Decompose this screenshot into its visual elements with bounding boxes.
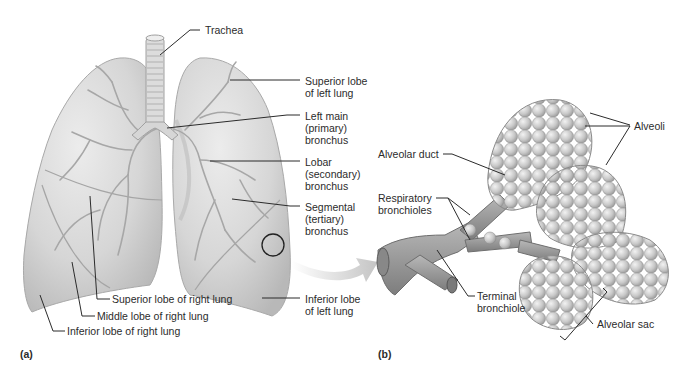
label-inferior-lobe-right-lung: Inferior lobe of right lung [67, 325, 180, 337]
label-inferior-lobe-left-lung: Inferior lobe of left lung [305, 293, 360, 317]
magnify-arrow [292, 258, 378, 282]
label-superior-lobe-left-lung: Superior lobe of left lung [305, 75, 367, 99]
label-respiratory-bronchioles: Respiratory bronchioles [378, 192, 432, 216]
label-left-main-bronchus: Left main (primary) bronchus [305, 110, 348, 146]
left-lung [168, 58, 290, 316]
label-trachea: Trachea [205, 24, 243, 36]
panel-label-b: (b) [378, 348, 391, 360]
label-alveolar-duct: Alveolar duct [378, 148, 439, 160]
label-terminal-bronchiole: Terminal bronchiole [477, 290, 525, 314]
label-superior-lobe-right-lung: Superior lobe of right lung [112, 293, 232, 305]
label-segmental-bronchus: Segmental (tertiary) bronchus [305, 201, 355, 237]
label-lobar-bronchus: Lobar (secondary) bronchus [305, 156, 360, 192]
lung-anatomy-figure: Trachea Superior lobe of left lung Left … [0, 0, 698, 376]
right-lung [23, 58, 162, 312]
panel-label-a: (a) [20, 348, 33, 360]
label-middle-lobe-right-lung: Middle lobe of right lung [97, 310, 209, 322]
label-alveolar-sac: Alveolar sac [597, 318, 654, 330]
label-alveoli: Alveoli [634, 120, 665, 132]
